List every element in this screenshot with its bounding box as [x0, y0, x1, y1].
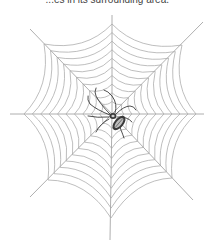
spiral-thread	[41, 41, 180, 198]
web-radial-threads	[10, 15, 204, 240]
spiral-thread	[24, 24, 196, 218]
web-spiral-threads	[24, 24, 196, 218]
radial-thread-down-right	[112, 114, 193, 200]
spider-web-illustration	[0, 0, 211, 248]
